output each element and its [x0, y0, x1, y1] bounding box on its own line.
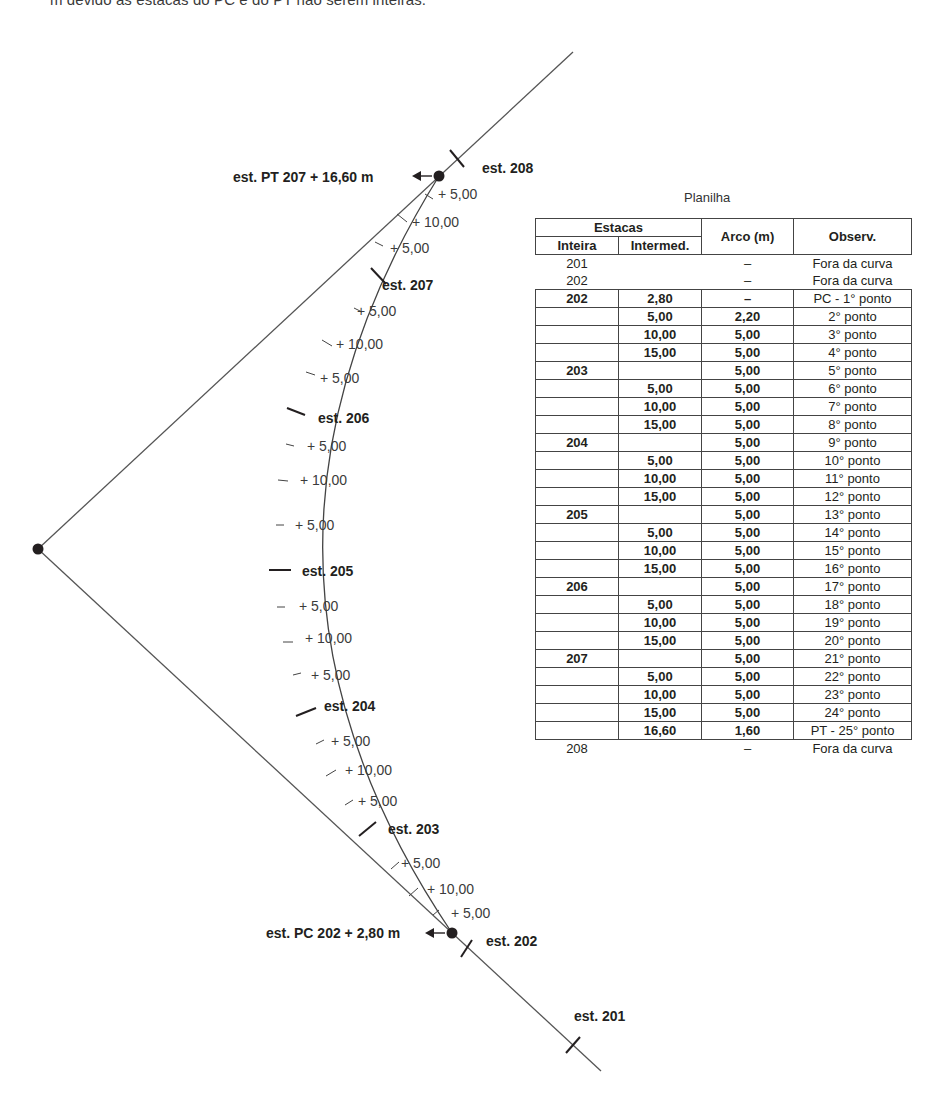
cell-inteira: 202 — [536, 290, 619, 308]
cell-intermed — [619, 255, 702, 273]
cell-arco: – — [702, 272, 794, 290]
cell-obs: PC - 1° ponto — [794, 290, 912, 308]
intermediate-label: + 5,00 — [451, 905, 491, 921]
table-row: 10,005,0023° ponto — [536, 686, 912, 704]
cell-arco: 5,00 — [702, 470, 794, 488]
cell-arco: 5,00 — [702, 596, 794, 614]
cell-intermed: 2,80 — [619, 290, 702, 308]
station-label-206: est. 206 — [318, 410, 370, 426]
station-label-202: est. 202 — [486, 933, 538, 949]
cell-arco: – — [702, 740, 794, 758]
cell-inteira: 204 — [536, 434, 619, 452]
table-row: 15,005,0020° ponto — [536, 632, 912, 650]
intermediate-label: + 5,00 — [331, 733, 371, 749]
intermediate-label: + 5,00 — [390, 240, 430, 256]
cell-arco: 5,00 — [702, 398, 794, 416]
table-row: 5,002,202° ponto — [536, 308, 912, 326]
cell-obs: 20° ponto — [794, 632, 912, 650]
cell-arco: 5,00 — [702, 506, 794, 524]
pt-station-label: est. PT 207 + 16,60 m — [233, 169, 373, 185]
intermediate-label: + 5,00 — [358, 793, 398, 809]
cell-obs: 21° ponto — [794, 650, 912, 668]
table-row: 208 – Fora da curva — [536, 740, 912, 758]
table-row: 16,601,60PT - 25° ponto — [536, 722, 912, 740]
cell-intermed — [619, 650, 702, 668]
cell-arco: 5,00 — [702, 632, 794, 650]
intermediate-label: + 10,00 — [336, 336, 383, 352]
cell-inteira — [536, 416, 619, 434]
cell-intermed — [619, 434, 702, 452]
cell-inteira — [536, 308, 619, 326]
cell-inteira — [536, 452, 619, 470]
cell-arco: 2,20 — [702, 308, 794, 326]
cell-inteira — [536, 722, 619, 740]
cell-inteira: 207 — [536, 650, 619, 668]
cell-obs: 16° ponto — [794, 560, 912, 578]
table-row: 15,005,004° ponto — [536, 344, 912, 362]
cell-arco: 5,00 — [702, 416, 794, 434]
cell-inteira: 201 — [536, 255, 619, 273]
intermediate-label: + 5,00 — [320, 370, 360, 386]
station-label-204: est. 204 — [324, 698, 376, 714]
cell-arco: 5,00 — [702, 704, 794, 722]
station-label-208: est. 208 — [482, 160, 534, 176]
table-row: 2022,80–PC - 1° ponto — [536, 290, 912, 308]
table-row: 2045,009° ponto — [536, 434, 912, 452]
cell-arco: 5,00 — [702, 686, 794, 704]
cell-arco: 1,60 — [702, 722, 794, 740]
intermediate-label: + 5,00 — [295, 517, 335, 533]
cell-obs: Fora da curva — [794, 272, 912, 290]
station-label-207: est. 207 — [382, 277, 434, 293]
intermediate-label: + 5,00 — [307, 438, 347, 454]
stakeout-table: Estacas Arco (m) Observ. Inteira Interme… — [535, 218, 912, 757]
cell-intermed: 10,00 — [619, 542, 702, 560]
cell-inteira — [536, 704, 619, 722]
intermediate-label: + 10,00 — [305, 630, 352, 646]
cell-arco: 5,00 — [702, 542, 794, 560]
cell-intermed: 15,00 — [619, 632, 702, 650]
cell-arco: 5,00 — [702, 452, 794, 470]
pi-vertex-point — [33, 544, 44, 555]
cell-arco: – — [702, 290, 794, 308]
tangent-line-lower — [38, 549, 601, 1071]
cell-arco: 5,00 — [702, 668, 794, 686]
intermediate-label: + 10,00 — [300, 472, 347, 488]
table-row: 5,005,006° ponto — [536, 380, 912, 398]
intermediate-label: + 5,00 — [311, 667, 351, 683]
cell-intermed: 15,00 — [619, 344, 702, 362]
cell-inteira — [536, 632, 619, 650]
station-label-203: est. 203 — [388, 821, 440, 837]
cell-obs: 5° ponto — [794, 362, 912, 380]
table-row: 2035,005° ponto — [536, 362, 912, 380]
cell-inteira — [536, 488, 619, 506]
cell-obs: 4° ponto — [794, 344, 912, 362]
cell-inteira — [536, 470, 619, 488]
cell-intermed: 16,60 — [619, 722, 702, 740]
cell-intermed: 5,00 — [619, 668, 702, 686]
cell-inteira — [536, 326, 619, 344]
pt-arrow-icon — [412, 171, 432, 181]
station-label-205: est. 205 — [302, 563, 354, 579]
cell-intermed: 10,00 — [619, 326, 702, 344]
table-row: 10,005,003° ponto — [536, 326, 912, 344]
cell-obs: 14° ponto — [794, 524, 912, 542]
table-row: 10,005,007° ponto — [536, 398, 912, 416]
cell-intermed: 15,00 — [619, 704, 702, 722]
cell-intermed: 15,00 — [619, 416, 702, 434]
table-row: 10,005,0019° ponto — [536, 614, 912, 632]
cell-inteira — [536, 614, 619, 632]
cell-intermed — [619, 272, 702, 290]
table-row: 5,005,0014° ponto — [536, 524, 912, 542]
cell-obs: Fora da curva — [794, 255, 912, 273]
table-row: 202 – Fora da curva — [536, 272, 912, 290]
table-row: 10,005,0011° ponto — [536, 470, 912, 488]
pc-point — [447, 928, 458, 939]
cell-inteira — [536, 686, 619, 704]
cell-arco: 5,00 — [702, 434, 794, 452]
cell-obs: 15° ponto — [794, 542, 912, 560]
table-row: 2075,0021° ponto — [536, 650, 912, 668]
cell-intermed: 5,00 — [619, 380, 702, 398]
cell-intermed — [619, 578, 702, 596]
table-row: 10,005,0015° ponto — [536, 542, 912, 560]
cell-arco: 5,00 — [702, 380, 794, 398]
